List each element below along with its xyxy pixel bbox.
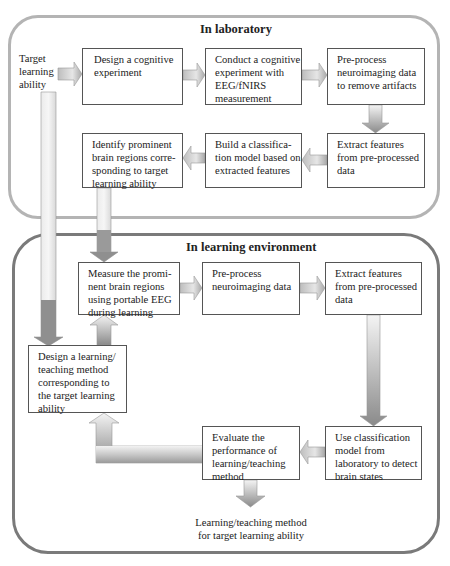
- arrow-down-icon: [236, 480, 265, 507]
- arrow-right-icon: [180, 276, 202, 300]
- step-extract-features-lab: Extract featuresfrom pre-processed data: [327, 133, 425, 188]
- step-use-classification-model: Use classificationmodel from laboratory …: [325, 426, 422, 480]
- step-design-learning-method: Design a learning/teaching method corres…: [28, 345, 127, 413]
- target-learning-ability-label: Targetlearningability: [19, 52, 54, 91]
- step-measure-brain-regions: Measure the promi-nent brain regions usi…: [78, 262, 180, 315]
- step-identify-brain-regions: Identify prominentbrain regions corre- s…: [82, 133, 183, 188]
- feedback-arrow-icon: [89, 413, 202, 463]
- step-preprocess-lab: Pre-processneuroimaging data to remove a…: [327, 48, 425, 105]
- step-conduct-cognitive-experiment: Conduct a cognitiveexperiment with EEG/f…: [205, 48, 302, 105]
- arrow-down-icon: [90, 188, 118, 262]
- arrow-left-icon: [300, 440, 325, 464]
- arrow-down-icon: [360, 315, 387, 426]
- step-preprocess-env: Pre-processneuroimaging data: [202, 262, 300, 315]
- arrow-down-icon: [34, 92, 63, 346]
- arrow-right-icon: [300, 276, 325, 300]
- step-build-classification-model: Build a classifica-tion model based on e…: [205, 133, 302, 188]
- output-learning-method-label: Learning/teaching methodfor target learn…: [180, 516, 322, 542]
- step-extract-features-env: Extract featuresfrom pre-processed data: [325, 262, 422, 315]
- arrow-right-icon: [183, 63, 205, 87]
- arrow-up-icon: [90, 315, 118, 345]
- arrow-left-icon: [183, 146, 205, 170]
- arrow-down-icon: [362, 105, 389, 133]
- arrow-right-icon: [58, 62, 82, 86]
- step-design-cognitive-experiment: Design a cognitiveexperiment: [82, 48, 183, 105]
- arrow-left-icon: [302, 148, 327, 172]
- step-evaluate-performance: Evaluate theperformance of learning/teac…: [202, 426, 300, 480]
- arrow-right-icon: [302, 63, 327, 87]
